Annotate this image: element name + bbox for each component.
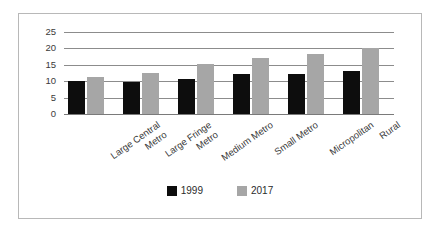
y-axis: 0510152025 [19, 32, 59, 114]
bar-2017[interactable] [307, 54, 324, 114]
x-tick-label: Large CentralMetro [109, 119, 169, 171]
y-tick-label: 10 [45, 76, 56, 86]
bar-2017[interactable] [252, 58, 269, 114]
bars-layer [64, 32, 394, 114]
bar-1999[interactable] [178, 79, 195, 114]
bar-2017[interactable] [362, 48, 379, 114]
chart-legend: 19992017 [19, 186, 421, 196]
x-tick-label-line: Small Metro [272, 119, 320, 157]
legend-item[interactable]: 2017 [237, 186, 273, 196]
x-tick-label: Small Metro [272, 119, 320, 157]
legend-swatch-icon [167, 186, 177, 196]
x-tick-label-line: Micropolitan [327, 119, 375, 157]
bar-group [229, 32, 284, 114]
y-tick-label: 5 [51, 93, 56, 103]
y-tick-label: 25 [45, 27, 56, 37]
legend-item[interactable]: 1999 [167, 186, 203, 196]
bar-1999[interactable] [288, 74, 305, 114]
bar-1999[interactable] [123, 82, 140, 114]
x-tick-label: Micropolitan [327, 119, 376, 158]
bar-group [119, 32, 174, 114]
chart-container: 0510152025 Large CentralMetroLarge Fring… [18, 13, 422, 219]
x-tick-label: Rural [377, 119, 402, 141]
bar-group [64, 32, 119, 114]
bar-1999[interactable] [343, 71, 360, 114]
bar-group [284, 32, 339, 114]
y-tick-label: 15 [45, 60, 56, 70]
legend-swatch-icon [237, 186, 247, 196]
bar-group [339, 32, 394, 114]
x-tick-label-line: Rural [377, 119, 402, 141]
y-tick-label: 20 [45, 44, 56, 54]
bar-1999[interactable] [233, 74, 250, 114]
bar-2017[interactable] [197, 64, 214, 114]
y-tick-label: 0 [51, 109, 56, 119]
legend-label: 2017 [251, 186, 273, 196]
x-tick-label-line: Medium Metro [219, 119, 275, 163]
legend-label: 1999 [181, 186, 203, 196]
x-tick-label: Medium Metro [219, 119, 275, 163]
bar-group [174, 32, 229, 114]
x-tick-label: Large FringeMetro [163, 119, 220, 169]
bar-1999[interactable] [68, 81, 85, 114]
x-axis: Large CentralMetroLarge FringeMetroMediu… [64, 115, 394, 177]
bar-2017[interactable] [142, 73, 159, 114]
bar-2017[interactable] [87, 77, 104, 114]
